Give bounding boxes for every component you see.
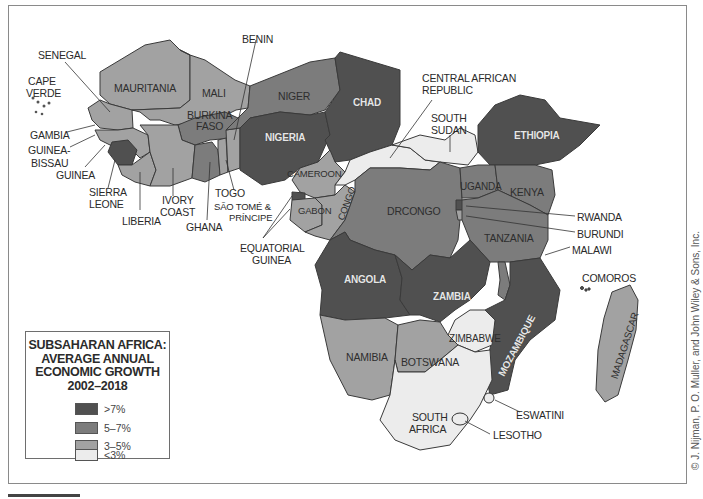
label-nigeria: NIGERIA — [265, 132, 305, 143]
label-tanzania: TANZANIA — [484, 233, 534, 244]
country-benin — [226, 128, 240, 172]
decorative-bar — [8, 494, 80, 497]
legend-swatch — [75, 422, 98, 434]
label-burundi: BURUNDI — [577, 229, 623, 240]
legend-title: SUBSAHARAN AFRICA: AVERAGE ANNUAL ECONOM… — [26, 339, 169, 393]
map-legend: SUBSAHARAN AFRICA: AVERAGE ANNUAL ECONOM… — [25, 331, 170, 459]
legend-item-lt3: <3% — [75, 448, 125, 461]
label-chad: CHAD — [353, 97, 381, 108]
label-sierra: SIERRA — [89, 187, 127, 198]
legend-item-5-7: 5–7% — [75, 421, 131, 434]
country-cape-verde — [32, 97, 51, 116]
country-mauritania — [100, 40, 190, 110]
country-madagascar — [596, 285, 638, 402]
label-zimbabwe: ZIMBABWE — [449, 333, 501, 344]
label-ethiopia: ETHIOPIA — [514, 130, 560, 141]
label-sao-tome-2: PRÍNCIPE — [229, 212, 272, 223]
label-faso: FASO — [196, 121, 223, 132]
country-comoros — [581, 287, 584, 290]
label-cameroon: CAMEROON — [287, 168, 341, 179]
label-ghana: GHANA — [186, 222, 222, 233]
legend-swatch — [75, 449, 98, 461]
label-kenya: KENYA — [510, 187, 544, 198]
label-car-2: REPUBLIC — [422, 85, 473, 96]
label-zambia: ZAMBIA — [433, 291, 471, 302]
label-niger: NIGER — [278, 91, 310, 102]
copyright-credit: © J. Nijman, P. O. Muller, and John Wile… — [690, 231, 701, 470]
label-coast: COAST — [160, 207, 195, 218]
label-equatorial-guinea-1: EQUATORIAL — [240, 243, 305, 254]
label-south-sudan-1: SOUTH — [431, 113, 467, 124]
legend-swatch — [75, 403, 98, 415]
label-cape-verde-2: VERDE — [26, 88, 61, 99]
country-lesotho — [452, 413, 468, 425]
label-mali: MALI — [202, 88, 226, 99]
label-cape-verde-1: CAPE — [28, 76, 56, 87]
legend-item-gt7: >7% — [75, 402, 125, 415]
label-benin: BENIN — [242, 34, 273, 45]
label-drcongo: DRCONGO — [387, 206, 440, 217]
label-leone: LEONE — [89, 199, 124, 210]
label-south-africa-1: SOUTH — [412, 412, 448, 423]
label-mauritania: MAURITANIA — [114, 83, 176, 94]
country-ghana — [192, 142, 220, 182]
label-equatorial-guinea-2: GUINEA — [252, 255, 291, 266]
label-car-1: CENTRAL AFRICAN — [422, 73, 516, 84]
label-uganda: UGANDA — [460, 181, 502, 192]
label-angola: ANGOLA — [344, 274, 386, 285]
label-botswana: BOTSWANA — [401, 357, 459, 368]
label-lesotho: LESOTHO — [493, 430, 542, 441]
label-south-africa-2: AFRICA — [409, 424, 446, 435]
label-sao-tome-1: SÃO TOMÉ & — [214, 201, 271, 212]
label-namibia: NAMIBIA — [346, 352, 388, 363]
label-guinea-bissau-1: GUINEA- — [28, 145, 70, 156]
label-eswatini: ESWATINI — [516, 410, 564, 421]
label-senegal: SENEGAL — [38, 50, 86, 61]
label-rwanda: RWANDA — [577, 212, 622, 223]
label-gambia: GAMBIA — [30, 130, 70, 141]
label-togo: TOGO — [215, 188, 245, 199]
label-ivory: IVORY — [162, 195, 194, 206]
label-malawi: MALAWI — [572, 245, 612, 256]
label-gabon: GABON — [298, 205, 331, 216]
label-liberia: LIBERIA — [122, 216, 161, 227]
label-guinea-bissau-2: BISSAU — [31, 158, 68, 169]
label-south-sudan-2: SUDAN — [431, 125, 467, 136]
country-eswatini — [484, 393, 494, 403]
label-comoros: COMOROS — [582, 273, 636, 284]
label-guinea: GUINEA — [56, 170, 95, 181]
